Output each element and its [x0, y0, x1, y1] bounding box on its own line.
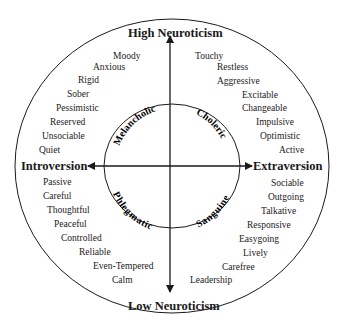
trait-active: Active — [279, 146, 304, 156]
trait-moody: Moody — [113, 52, 140, 62]
trait-talkative: Talkative — [261, 207, 296, 217]
trait-quiet: Quiet — [39, 146, 60, 156]
axis-label-extraversion: Extraversion — [253, 160, 322, 173]
trait-thoughtful: Thoughtful — [47, 206, 90, 216]
trait-careful: Careful — [43, 192, 72, 202]
temperament-choleric: Choleric — [195, 106, 230, 141]
trait-easygoing: Easygoing — [239, 235, 279, 245]
trait-passive: Passive — [43, 178, 72, 188]
temperament-melancholic: Melancholic — [111, 102, 157, 147]
trait-rigid: Rigid — [78, 76, 99, 86]
temperament-sanguine: Sanguine — [194, 192, 231, 229]
trait-carefree: Carefree — [222, 263, 255, 273]
trait-sociable: Sociable — [271, 179, 304, 189]
trait-aggressive: Aggressive — [217, 77, 260, 87]
trait-responsive: Responsive — [247, 221, 291, 231]
trait-even-tempered: Even-Tempered — [93, 262, 154, 272]
axis-label-high-neuroticism: High Neuroticism — [128, 27, 223, 40]
trait-touchy: Touchy — [195, 52, 223, 62]
trait-changeable: Changeable — [242, 104, 287, 114]
axis-label-low-neuroticism: Low Neuroticism — [128, 300, 220, 313]
trait-calm: Calm — [112, 276, 133, 286]
trait-restless: Restless — [217, 63, 248, 73]
trait-sober: Sober — [67, 90, 89, 100]
axis-label-introversion: Introversion — [21, 160, 87, 173]
trait-outgoing: Outgoing — [268, 193, 304, 203]
trait-anxious: Anxious — [93, 63, 125, 73]
trait-controlled: Controlled — [61, 234, 102, 244]
trait-lively: Lively — [243, 249, 268, 259]
trait-unsociable: Unsociable — [42, 132, 85, 142]
trait-pessimistic: Pessimistic — [56, 104, 99, 114]
trait-leadership: Leadership — [190, 276, 232, 286]
trait-impulsive: Impulsive — [256, 118, 294, 128]
temperament-phlegmatic: Phlegmatic — [111, 190, 155, 232]
trait-reliable: Reliable — [79, 248, 111, 258]
trait-peaceful: Peaceful — [54, 220, 87, 230]
trait-excitable: Excitable — [242, 91, 278, 101]
trait-optimistic: Optimistic — [260, 132, 300, 142]
trait-reserved: Reserved — [50, 118, 85, 128]
